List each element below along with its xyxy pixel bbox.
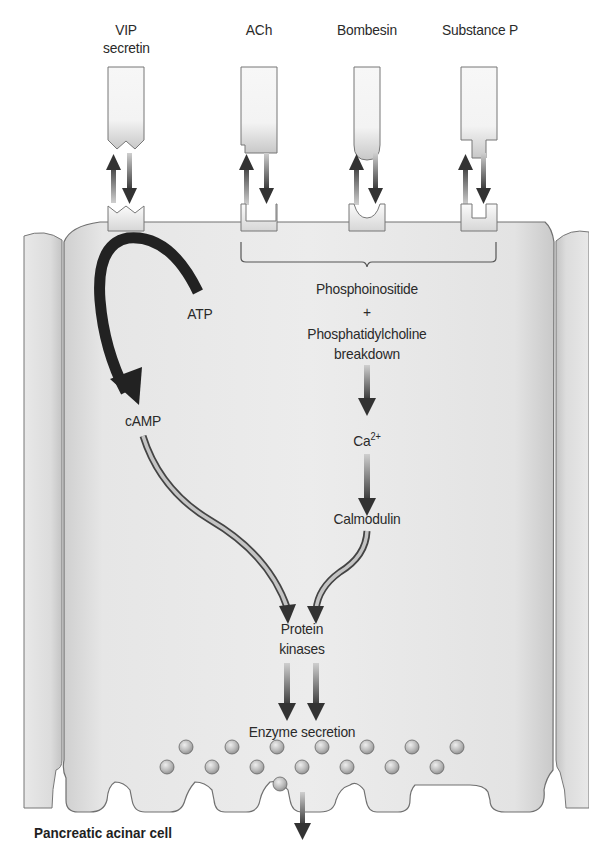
ligand-substance-p <box>461 67 497 158</box>
phosphoinositide-label: Phosphoinositide <box>293 280 440 298</box>
ach-arrow-pair <box>239 153 274 205</box>
camp-label: cAMP <box>120 412 166 430</box>
calmodulin-label: Calmodulin <box>321 510 413 528</box>
enzyme-secretion-label: Enzyme secretion <box>238 723 367 741</box>
ligand-label-ach: ACh <box>236 21 282 39</box>
protein-kinases-label-line1: Protein <box>265 620 339 638</box>
figure-caption: Pancreatic acinar cell <box>34 824 172 841</box>
ligand-vip <box>108 67 144 149</box>
phosphatidylcholine-label: Phosphatidylcholine <box>284 325 450 343</box>
receptor-ach <box>241 204 277 231</box>
protein-kinases-label-line2: kinases <box>265 640 339 658</box>
vip-arrow-pair <box>106 153 137 204</box>
binding-arrows <box>106 153 491 205</box>
ligand-ach <box>241 67 277 153</box>
plus-label: + <box>293 303 440 321</box>
ligand-vip-line2: secretin <box>103 39 149 57</box>
receptor-substance-p <box>461 204 497 231</box>
calcium-symbol: Ca <box>353 432 370 449</box>
ligand-bombesin <box>354 67 380 160</box>
receptor-bombesin <box>349 204 385 231</box>
diagram-canvas: VIP secretin ACh Bombesin Substance P AT… <box>0 0 589 853</box>
neighbour-cell-left <box>24 233 62 808</box>
ligand-label-bombesin: Bombesin <box>328 21 405 39</box>
bombesin-arrow-pair <box>349 153 383 205</box>
ligand-label-vip: VIP secretin <box>103 21 149 57</box>
calcium-label: Ca2+ <box>344 432 390 450</box>
calcium-charge: 2+ <box>371 431 381 442</box>
ligand-vip-line1: VIP <box>103 21 149 39</box>
neighbour-cell-right <box>556 231 589 808</box>
ligand-label-substance-p: Substance P <box>434 21 526 39</box>
breakdown-label: breakdown <box>293 345 440 363</box>
receptor-vip <box>108 206 144 231</box>
atp-label: ATP <box>182 305 219 323</box>
substance-p-arrow-pair <box>458 153 491 205</box>
